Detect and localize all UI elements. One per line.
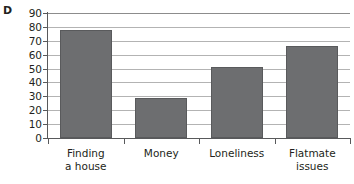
gridline-80 bbox=[48, 27, 350, 28]
category-label-line: issues bbox=[275, 160, 351, 173]
y-tick-50 bbox=[43, 69, 47, 70]
category-label-line: Finding bbox=[48, 147, 124, 160]
y-tick-40 bbox=[43, 82, 47, 83]
bar bbox=[135, 98, 187, 138]
category-label-line: Loneliness bbox=[199, 147, 275, 160]
category-label-line: Flatmate bbox=[275, 147, 351, 160]
bar bbox=[60, 30, 112, 138]
y-tick-label-40: 40 bbox=[0, 77, 42, 87]
y-tick-label-10: 10 bbox=[0, 119, 42, 129]
y-tick-10 bbox=[43, 124, 47, 125]
x-tick bbox=[48, 138, 49, 144]
y-tick-60 bbox=[43, 55, 47, 56]
y-tick-30 bbox=[43, 96, 47, 97]
y-axis-labels: 9080706050403020100 bbox=[0, 0, 42, 184]
y-tick-90 bbox=[43, 13, 47, 14]
y-tick-label-80: 80 bbox=[0, 22, 42, 32]
gridline-90 bbox=[48, 13, 350, 14]
plot-area bbox=[48, 13, 350, 138]
x-tick bbox=[275, 138, 276, 144]
category-label: Money bbox=[124, 147, 200, 160]
category-label-line: a house bbox=[48, 160, 124, 173]
y-tick-label-20: 20 bbox=[0, 105, 42, 115]
y-tick-0 bbox=[43, 138, 47, 139]
x-tick bbox=[124, 138, 125, 144]
y-tick-label-30: 30 bbox=[0, 91, 42, 101]
category-label: Findinga house bbox=[48, 147, 124, 173]
y-tick-label-50: 50 bbox=[0, 64, 42, 74]
category-label-line: Money bbox=[124, 147, 200, 160]
bar bbox=[286, 46, 338, 138]
x-tick bbox=[350, 138, 351, 144]
y-tick-label-0: 0 bbox=[0, 133, 42, 143]
category-label: Loneliness bbox=[199, 147, 275, 160]
x-tick bbox=[199, 138, 200, 144]
y-tick-70 bbox=[43, 41, 47, 42]
bar-chart-figure: D 9080706050403020100 Findinga houseMone… bbox=[0, 0, 354, 184]
y-tick-label-60: 60 bbox=[0, 50, 42, 60]
bar bbox=[211, 67, 263, 138]
y-tick-label-90: 90 bbox=[0, 8, 42, 18]
y-tick-80 bbox=[43, 27, 47, 28]
y-tick-label-70: 70 bbox=[0, 36, 42, 46]
category-label: Flatmateissues bbox=[275, 147, 351, 173]
y-tick-20 bbox=[43, 110, 47, 111]
